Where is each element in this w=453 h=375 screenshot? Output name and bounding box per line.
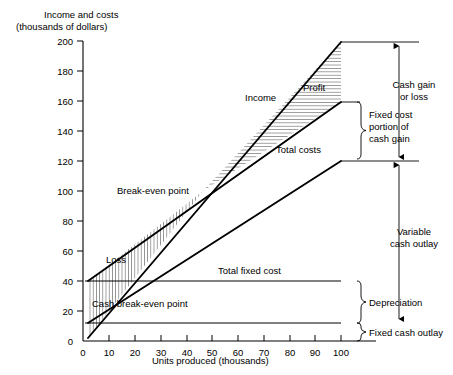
y-axis-title-line1: Income and costs — [44, 9, 119, 20]
x-axis-ticks — [109, 335, 341, 341]
y-tick-label: 200 — [57, 36, 73, 47]
depreciation-label: Depreciation — [369, 297, 422, 308]
x-tick-label: 100 — [333, 347, 349, 358]
x-tick-label: 20 — [130, 347, 141, 358]
depreciation-brace — [357, 281, 366, 323]
cash-break-even-point-label: Cash break-even point — [92, 298, 188, 309]
fixed-cost-portion-label-line3: cash gain — [369, 133, 410, 144]
variable-cash-outlay-label-line1: Variable — [397, 226, 431, 237]
break-even-point-label: Break-even point — [117, 185, 189, 196]
fixed-cash-outlay-label: Fixed cash outlay — [369, 327, 443, 338]
x-tick-label: 90 — [310, 347, 321, 358]
y-tick-label: 40 — [62, 276, 73, 287]
income-label: Income — [245, 92, 276, 103]
x-tick-label: 50 — [207, 347, 218, 358]
y-tick-label: 60 — [62, 246, 73, 257]
fixed-cost-portion-label-line2: portion of — [369, 121, 409, 132]
y-tick-label: 140 — [57, 126, 73, 137]
variable-cash-outlay-label-line2: cash outlay — [390, 238, 438, 249]
y-tick-label: 20 — [62, 306, 73, 317]
break-even-chart: Income and costs (thousands of dollars) … — [0, 0, 453, 375]
profit-label: Profit — [303, 82, 326, 93]
total-costs-label: Total costs — [276, 144, 321, 155]
y-tick-label: 120 — [57, 156, 73, 167]
cash-gain-or-loss-label-line1: Cash gain — [393, 79, 436, 90]
y-tick-label: 100 — [57, 186, 73, 197]
x-tick-label: 80 — [285, 347, 296, 358]
y-tick-label: 180 — [57, 66, 73, 77]
total-fixed-cost-label: Total fixed cost — [218, 265, 281, 276]
y-tick-label: 80 — [62, 216, 73, 227]
x-tick-label: 10 — [104, 347, 115, 358]
x-tick-label: 70 — [259, 347, 270, 358]
fixed-cost-portion-label-line1: Fixed cost — [369, 109, 413, 120]
x-tick-label: 40 — [182, 347, 193, 358]
fixed-cash-outlay-brace — [357, 323, 366, 341]
x-tick-label: 60 — [233, 347, 244, 358]
x-axis-tick-labels: 0 10 20 30 40 50 60 70 80 90 100 — [80, 347, 349, 358]
y-axis-ticks — [77, 41, 83, 311]
cash-gain-or-loss-label-line2: or loss — [400, 91, 428, 102]
x-tick-label: 30 — [156, 347, 167, 358]
y-axis-title-line2: (thousands of dollars) — [16, 21, 107, 32]
chart-svg: Income and costs (thousands of dollars) … — [0, 0, 453, 375]
y-axis-tick-labels: 200 180 160 140 120 100 80 60 40 20 0 — [57, 36, 73, 347]
x-tick-label: 0 — [80, 347, 85, 358]
y-tick-label: 0 — [68, 336, 73, 347]
y-tick-label: 160 — [57, 96, 73, 107]
fixed-cost-portion-brace — [357, 102, 366, 159]
loss-label: Loss — [106, 254, 126, 265]
